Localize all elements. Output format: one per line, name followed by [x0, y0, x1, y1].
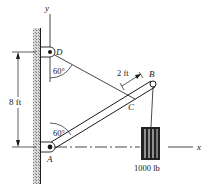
point-d-label: D [55, 47, 63, 57]
weight-label: 1000 lb [134, 163, 160, 173]
point-a-label: A [46, 154, 53, 164]
x-axis-label: x [196, 142, 201, 152]
bc-dimension-label: 2 ft [117, 68, 129, 78]
weight-rope [151, 87, 153, 127]
statics-diagram: y x 8 ft 60° 60° D A B C [0, 0, 215, 187]
pin-b [150, 81, 156, 87]
height-dimension-label: 8 ft [9, 97, 22, 107]
point-c-label: C [128, 102, 135, 112]
boom-ab [48, 81, 155, 150]
angle-d-label: 60° [53, 66, 65, 76]
pin-support-d [41, 47, 55, 57]
angle-a-label: 60° [53, 128, 65, 138]
y-axis-label: y [44, 3, 49, 13]
point-b-label: B [149, 69, 155, 79]
weight-block [141, 127, 160, 160]
pin-support-a [41, 142, 55, 152]
wall [33, 28, 41, 184]
